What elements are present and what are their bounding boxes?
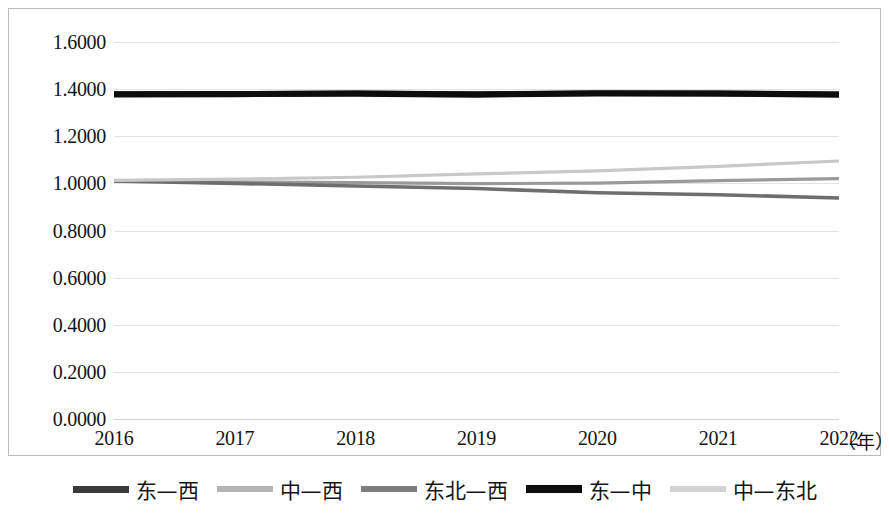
legend-swatch	[73, 486, 129, 493]
x-tick-label: 2018	[336, 427, 375, 450]
series-lines	[114, 42, 839, 419]
y-axis-labels: 0.00000.20000.40000.60000.80001.00001.20…	[9, 42, 106, 419]
x-tick-label: 2016	[95, 427, 134, 450]
chart-legend: 东—西中—西东北—西东—中中—东北	[8, 466, 881, 512]
chart-frame: 0.00000.20000.40000.60000.80001.00001.20…	[8, 8, 881, 456]
plot-area	[114, 42, 839, 419]
legend-item[interactable]: 东—西	[73, 474, 199, 504]
legend-swatch	[670, 486, 726, 492]
legend-swatch	[361, 486, 417, 492]
legend-label: 东—西	[136, 474, 199, 504]
legend-item[interactable]: 中—西	[217, 474, 343, 504]
x-tick-label: 2021	[699, 427, 738, 450]
gridline	[114, 419, 839, 420]
legend-label: 东北—西	[424, 474, 508, 504]
x-axis-labels: 2016201720182019202020212022	[114, 427, 839, 457]
legend-label: 中—东北	[733, 474, 817, 504]
legend-swatch	[526, 485, 582, 493]
x-tick-label: 2020	[578, 427, 617, 450]
legend-item[interactable]: 东—中	[526, 474, 652, 504]
y-tick-label: 0.8000	[53, 219, 106, 242]
legend-label: 中—西	[280, 474, 343, 504]
y-tick-label: 0.4000	[53, 313, 106, 336]
legend-item[interactable]: 东北—西	[361, 474, 508, 504]
y-tick-label: 1.0000	[53, 172, 106, 195]
x-tick-label: 2017	[215, 427, 254, 450]
x-axis-unit-label: （年）	[837, 427, 889, 454]
y-tick-label: 1.6000	[53, 31, 106, 54]
series-line	[114, 161, 839, 180]
series-line	[114, 93, 839, 94]
y-tick-label: 1.2000	[53, 125, 106, 148]
legend-label: 东—中	[589, 474, 652, 504]
x-tick-label: 2019	[457, 427, 496, 450]
chart-figure: 0.00000.20000.40000.60000.80001.00001.20…	[0, 0, 889, 521]
y-tick-label: 0.6000	[53, 266, 106, 289]
y-tick-label: 1.4000	[53, 78, 106, 101]
y-tick-label: 0.2000	[53, 360, 106, 383]
legend-swatch	[217, 486, 273, 492]
legend-item[interactable]: 中—东北	[670, 474, 817, 504]
